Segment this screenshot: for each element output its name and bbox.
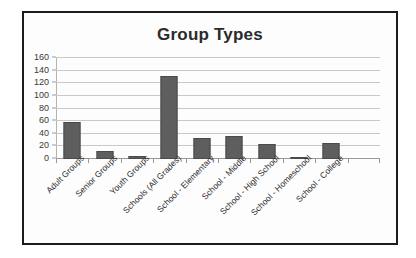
bar-slot <box>250 58 282 159</box>
bar-slot <box>218 58 250 159</box>
bar[interactable] <box>161 76 178 159</box>
bar-series <box>56 58 380 159</box>
bar-slot <box>153 58 185 159</box>
chart-title: Group Types <box>24 25 396 45</box>
y-axis-tick-label: 160 <box>34 52 49 62</box>
bar-slot <box>186 58 218 159</box>
chart-frame: Group Types 020406080100120140160 Adult … <box>22 11 398 245</box>
y-axis-tick-label: 100 <box>34 90 49 100</box>
x-label-slot <box>348 161 380 241</box>
y-axis-tick-label: 60 <box>39 115 49 125</box>
chart-plot-container: Group Types 020406080100120140160 Adult … <box>24 13 396 243</box>
bar-slot <box>121 58 153 159</box>
y-axis-tick-label: 20 <box>39 140 49 150</box>
bar-slot <box>88 58 120 159</box>
y-axis-tick-label: 40 <box>39 128 49 138</box>
bar-slot <box>348 58 380 159</box>
x-axis-labels: Adult GroupsSenior GroupsYouth GroupsSch… <box>56 161 380 241</box>
y-axis-tick-label: 0 <box>44 153 49 163</box>
y-axis-tick-label: 140 <box>34 65 49 75</box>
y-axis-tick-label: 80 <box>39 103 49 113</box>
y-axis-tick-label: 120 <box>34 77 49 87</box>
plot-area: 020406080100120140160 <box>56 58 380 159</box>
bar-slot <box>315 58 347 159</box>
x-label-slot: School - College <box>315 161 347 241</box>
bar-slot <box>283 58 315 159</box>
bar-slot <box>56 58 88 159</box>
